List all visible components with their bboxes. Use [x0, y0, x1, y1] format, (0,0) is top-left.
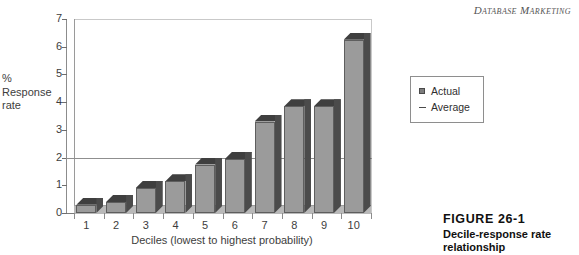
y-axis-tick-label: 4 [44, 95, 62, 107]
x-axis-tick-mark [252, 213, 253, 219]
y-axis-tick-mark [62, 130, 67, 131]
y-axis-tick-label: 2 [44, 151, 62, 163]
bar [314, 0, 334, 213]
plot-left-border [74, 19, 75, 214]
bar [165, 0, 185, 213]
x-axis-tick-mark [163, 213, 164, 219]
y-axis-tick-mark [62, 74, 67, 75]
bar [284, 0, 304, 213]
x-axis-tick-mark [341, 213, 342, 219]
x-axis-tick-mark [104, 213, 105, 219]
legend-item-average: Average [419, 100, 475, 114]
bar-front-face [136, 188, 156, 213]
x-axis-tick-label: 6 [225, 219, 245, 231]
y-axis-tick-label: 0 [44, 206, 62, 218]
x-axis-tick-label: 2 [106, 219, 126, 231]
bar-side-face [364, 33, 371, 213]
x-axis-title: Deciles (lowest to highest probability) [74, 234, 370, 246]
bar-front-face [76, 205, 96, 213]
x-axis-tick-label: 4 [165, 219, 185, 231]
x-axis-tick-label: 10 [344, 219, 364, 231]
line-swatch-icon [419, 104, 425, 110]
y-axis-tick-label: 5 [44, 67, 62, 79]
legend-item-actual: Actual [419, 84, 475, 98]
y-axis-tick-label: 6 [44, 40, 62, 52]
y-axis-tick-mark [62, 47, 67, 48]
bar [255, 0, 275, 213]
y-axis-tick-label: 1 [44, 178, 62, 190]
bar-front-face [255, 122, 275, 213]
bar-front-face [225, 159, 245, 213]
figure-number: FIGURE 26-1 [443, 212, 579, 226]
y-axis-tick-label: 7 [44, 12, 62, 24]
bar [225, 0, 245, 213]
x-axis-tick-mark [282, 213, 283, 219]
legend-label: Average [431, 100, 470, 114]
x-axis-tick-label: 3 [136, 219, 156, 231]
bar-front-face [314, 106, 334, 213]
figure-caption: FIGURE 26-1 Decile-response rate relatio… [443, 212, 579, 254]
bar-side-face [215, 158, 222, 214]
bar-front-face [195, 165, 215, 214]
x-axis-tick-label: 9 [314, 219, 334, 231]
x-axis-tick-mark [371, 213, 372, 219]
y-axis-tick-mark [62, 185, 67, 186]
bar-side-face [334, 99, 341, 213]
bar-side-face [245, 152, 252, 213]
chart-figure: % Response rate 01234567 12345678910 Dec… [0, 0, 420, 255]
y-axis-tick-mark [62, 213, 67, 214]
x-axis-tick-label: 8 [284, 219, 304, 231]
bar-front-face [344, 40, 364, 213]
legend-label: Actual [431, 84, 460, 98]
bar [76, 0, 96, 213]
x-axis-tick-mark [74, 213, 75, 219]
y-axis-tick-mark [62, 102, 67, 103]
x-axis-tick-mark [312, 213, 313, 219]
x-axis-tick-label: 1 [76, 219, 96, 231]
x-axis-tick-mark [223, 213, 224, 219]
bar-front-face [284, 106, 304, 213]
y-axis-tick-label: 3 [44, 123, 62, 135]
bar-front-face [106, 202, 126, 213]
bar-side-face [275, 115, 282, 213]
bar [106, 0, 126, 213]
x-axis-tick-label: 5 [195, 219, 215, 231]
bar [136, 0, 156, 213]
x-axis-tick-mark [133, 213, 134, 219]
chart-legend: Actual Average [410, 76, 484, 123]
x-axis-tick-label: 7 [255, 219, 275, 231]
square-swatch-icon [419, 88, 425, 94]
bar [195, 0, 215, 213]
plot-right-border [371, 19, 372, 214]
bar-side-face [304, 99, 311, 213]
bar-front-face [165, 181, 185, 213]
figure-title: Decile-response rate relationship [443, 228, 579, 254]
bar [344, 0, 364, 213]
y-axis-tick-mark [62, 19, 67, 20]
running-head: Database Marketing [474, 4, 571, 16]
x-axis-tick-mark [193, 213, 194, 219]
